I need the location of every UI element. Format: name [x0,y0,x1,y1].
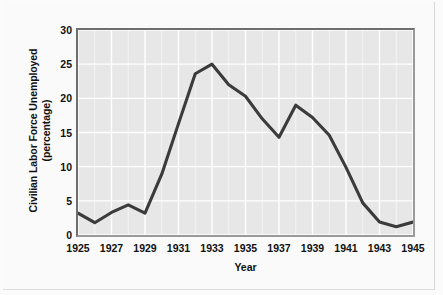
x-axis-tick-label: 1939 [301,242,324,254]
x-axis-tick-label: 1933 [200,242,223,254]
y-axis-title-line2: (percentage) [40,48,53,212]
y-axis-tick-label: 20 [52,93,72,104]
x-axis-tick-label: 1925 [66,242,89,254]
x-axis-title: Year [76,261,415,273]
x-axis-tick-label: 1927 [100,242,123,254]
x-axis-tick-label: 1931 [167,242,190,254]
x-axis-tick-label: 1929 [133,242,156,254]
x-axis-tick-label: 1941 [334,242,357,254]
y-axis-tick-label: 5 [52,195,72,206]
plot-inner [78,30,413,235]
data-line-unemployment [78,30,413,235]
x-axis-tick-label: 1937 [267,242,290,254]
y-axis-tick-label: 30 [52,25,72,36]
y-axis-tick-label: 0 [52,230,72,241]
chart-figure: Civilian Labor Force Unemployed (percent… [0,0,443,295]
x-axis-tick-label: 1943 [368,242,391,254]
x-axis-tick-label: 1945 [401,242,424,254]
plot-area [76,28,415,237]
y-axis-tick-label: 10 [52,161,72,172]
x-axis-tick-label: 1935 [234,242,257,254]
y-axis-tick-label: 15 [52,127,72,138]
y-axis-tick-label: 25 [52,59,72,70]
y-axis-title-line1: Civilian Labor Force Unemployed [28,48,41,212]
x-axis-tick-labels: 1925192719291931193319351937193919411943… [76,242,415,258]
